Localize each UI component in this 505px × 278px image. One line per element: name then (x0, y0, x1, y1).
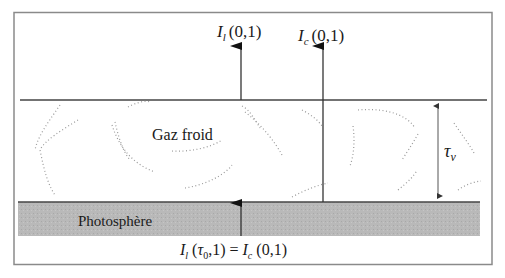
radiative-transfer-diagram: Il(0,1) Ic(0,1) Gaz froid Photosphère τν… (0, 0, 505, 278)
optical-depth-label: τν (444, 141, 456, 164)
photosphere-label: Photosphère (78, 213, 153, 229)
gas-filaments (35, 101, 481, 197)
line-intensity-label: Il(0,1) (216, 22, 261, 43)
boundary-condition-equation: Il (τ0,1) = Ic (0,1) (179, 241, 287, 261)
continuum-intensity-label: Ic(0,1) (297, 26, 344, 47)
cold-gas-label: Gaz froid (152, 126, 213, 143)
